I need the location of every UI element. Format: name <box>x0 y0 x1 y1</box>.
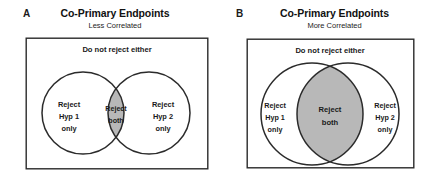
panel-a-venn-diagram: Do not reject either Reject Hyp 1 only R… <box>25 37 209 170</box>
panel-a-left-label-line1: Reject <box>58 100 81 109</box>
panel-a-title: Co-Primary Endpoints <box>6 7 224 20</box>
panel-a-left-label-line3: only <box>61 124 77 133</box>
panel-a-both-label-line2: both <box>108 117 123 125</box>
panel-a-right-label-line3: only <box>155 124 171 133</box>
panel-a-outer-label: Do not reject either <box>82 45 151 54</box>
panel-a: A Co-Primary Endpoints Less Correlated D… <box>0 0 218 182</box>
panel-a-left-label-line2: Hyp 1 <box>59 112 79 121</box>
venn-figure: A Co-Primary Endpoints Less Correlated D… <box>0 0 435 182</box>
panel-b-left-label-line3: only <box>268 125 283 134</box>
panel-b: B Co-Primary Endpoints More Correlated D… <box>218 0 435 182</box>
panel-a-right-label-line1: Reject <box>152 100 175 109</box>
panel-b-right-label-line1: Reject <box>374 101 396 110</box>
panel-a-subtitle: Less Correlated <box>6 21 224 31</box>
panel-b-both-label-line2: both <box>322 118 339 127</box>
panel-b-right-label-line2: Hyp 2 <box>375 113 395 122</box>
panel-b-both-label-line1: Reject <box>319 105 342 114</box>
panel-b-left-label-line1: Reject <box>264 101 286 110</box>
panel-b-title: Co-Primary Endpoints <box>226 7 435 20</box>
panel-b-outer-label: Do not reject either <box>295 46 364 55</box>
panel-b-left-label-line2: Hyp 1 <box>265 113 285 122</box>
panel-a-both-label-line1: Reject <box>105 105 127 113</box>
panel-b-venn-diagram: Do not reject either Reject Hyp 1 only R… <box>246 38 415 169</box>
panel-a-right-label-line2: Hyp 2 <box>153 112 173 121</box>
panel-b-subtitle: More Correlated <box>226 21 435 31</box>
panel-b-right-label-line3: only <box>378 125 393 134</box>
